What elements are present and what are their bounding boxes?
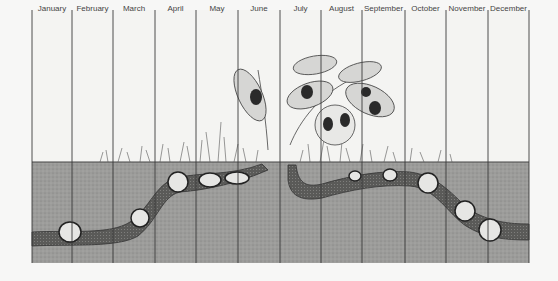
month-label-december: December (488, 4, 529, 13)
beetle-icon (301, 85, 313, 99)
grub-icon (455, 201, 475, 221)
month-label-february: February (72, 4, 113, 13)
grub-lifecycle-diagram (0, 0, 558, 281)
beetle-icon (369, 101, 381, 115)
grub-icon (418, 173, 438, 193)
grub-icon (479, 219, 501, 241)
beetle-icon (250, 89, 262, 105)
grub-icon (383, 169, 397, 181)
grub-icon (131, 209, 149, 227)
month-label-august: August (321, 4, 362, 13)
month-label-march: March (113, 4, 155, 13)
month-label-january: January (32, 4, 72, 13)
beetle-icon (340, 113, 350, 127)
month-label-october: October (405, 4, 446, 13)
month-label-april: April (155, 4, 196, 13)
beetle-icon (323, 117, 333, 131)
beetle-icon (361, 87, 371, 97)
grub-icon (225, 172, 249, 184)
grub-icon (349, 171, 361, 181)
month-label-september: September (362, 4, 405, 13)
grub-icon (199, 173, 221, 187)
grub-icon (59, 222, 81, 242)
grub-icon (168, 172, 188, 192)
month-label-july: July (280, 4, 321, 13)
sky-area (32, 10, 529, 162)
month-label-november: November (446, 4, 488, 13)
month-label-june: June (238, 4, 280, 13)
month-label-may: May (196, 4, 238, 13)
